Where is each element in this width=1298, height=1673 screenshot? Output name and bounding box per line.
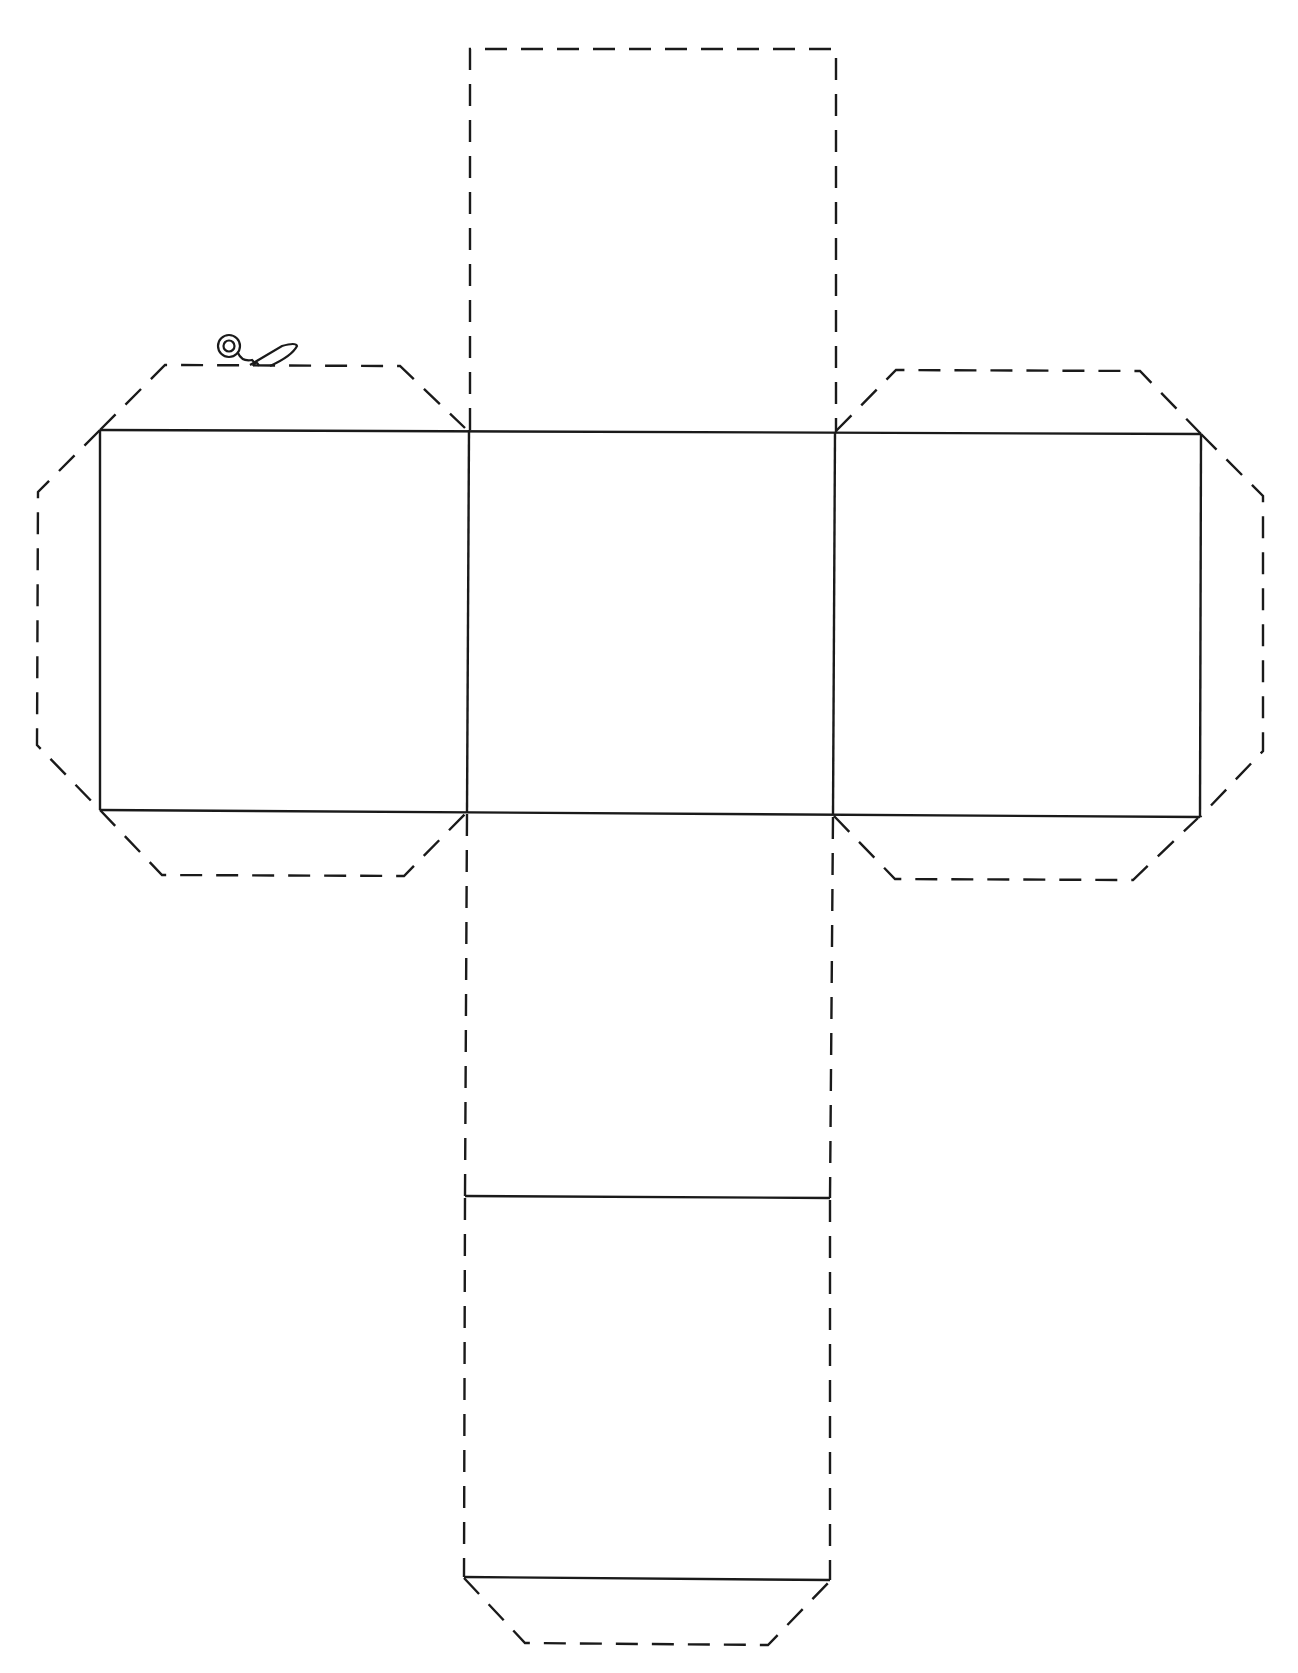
cube-net-diagram (0, 0, 1298, 1673)
lower-face (465, 814, 833, 1198)
left-side-tab (37, 430, 100, 810)
top-face (470, 49, 836, 432)
bottom-tab (464, 1578, 830, 1645)
right-side-tab (1200, 434, 1263, 817)
right-bottom-tab (834, 816, 1198, 880)
scissors-icon (218, 335, 297, 366)
bottom-face (464, 1198, 830, 1580)
right-top-tab (836, 370, 1201, 434)
left-bottom-tab (100, 810, 465, 876)
left-top-tab (100, 365, 465, 430)
fold-lines (100, 430, 1201, 1580)
